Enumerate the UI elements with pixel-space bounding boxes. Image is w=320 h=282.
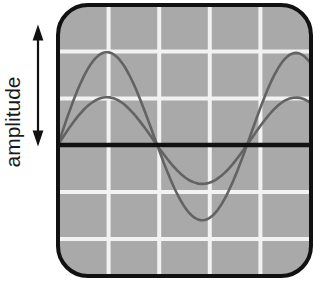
waveform-svg (0, 0, 320, 282)
scope-panel-background (58, 5, 311, 276)
amplitude-arrow (33, 25, 44, 147)
amplitude-arrow-head-bottom (33, 131, 44, 147)
amplitude-arrow-head-top (33, 25, 44, 41)
waveform-figure: amplitude (0, 0, 320, 282)
